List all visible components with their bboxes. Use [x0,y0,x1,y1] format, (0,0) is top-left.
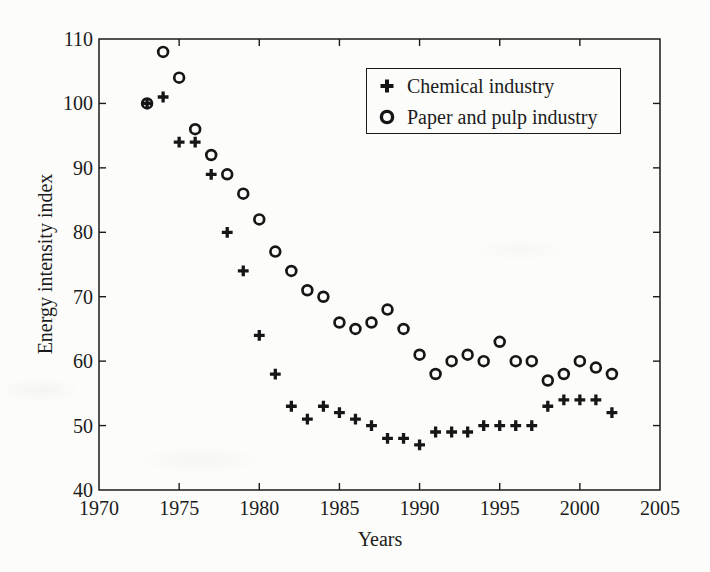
data-point-plus [318,401,329,412]
y-tick-label: 110 [33,27,93,51]
data-point-circle [206,150,216,160]
data-point-plus [478,420,489,431]
data-point-circle [495,337,505,347]
data-point-circle [222,169,232,179]
data-point-plus [526,420,537,431]
chart-figure: 405060708090100110 197019751980198519901… [0,0,710,572]
data-point-plus [238,266,249,277]
data-point-plus [510,420,521,431]
data-point-circle [399,324,409,334]
data-point-plus [350,414,361,425]
data-point-circle [351,324,361,334]
data-point-plus [430,427,441,438]
data-point-plus [414,440,425,451]
circle-marker-icon [375,105,399,129]
legend-item-chemical-industry: Chemical industry [375,72,620,100]
legend-label-chemical: Chemical industry [407,74,554,98]
data-point-circle [254,215,264,225]
x-tick-label: 1975 [139,496,219,520]
data-point-plus [446,427,457,438]
data-point-circle [431,369,441,379]
data-point-circle [302,285,312,295]
x-tick-label: 2005 [620,496,700,520]
data-point-plus [382,433,393,444]
data-point-circle [543,376,553,386]
data-point-circle [527,356,537,366]
data-point-circle [383,305,393,315]
data-point-plus [558,394,569,405]
data-point-circle [463,350,473,360]
data-point-circle [286,266,296,276]
x-axis-title: Years [320,527,440,551]
x-tick-label: 1995 [460,496,540,520]
data-point-circle [447,356,457,366]
data-point-plus [334,407,345,418]
y-tick-label: 100 [33,91,93,115]
data-point-plus [206,169,217,180]
y-axis-title: Energy intensity index [33,174,57,355]
data-point-circle [415,350,425,360]
data-point-plus [222,227,233,238]
data-point-plus [190,137,201,148]
data-point-circle [335,318,345,328]
x-tick-label: 1970 [59,496,139,520]
legend-item-paper-pulp-industry: Paper and pulp industry [375,103,620,131]
data-point-circle [319,292,329,302]
data-point-circle [511,356,521,366]
data-point-plus [494,420,505,431]
data-point-plus [174,137,185,148]
data-point-plus [398,433,409,444]
x-tick-label: 1980 [219,496,299,520]
data-point-plus [158,92,169,103]
data-point-circle [559,369,569,379]
x-tick-label: 1985 [299,496,379,520]
data-point-circle [575,356,585,366]
x-tick-label: 2000 [540,496,620,520]
data-point-circle [270,247,280,257]
legend-label-paper-pulp: Paper and pulp industry [407,105,598,129]
data-point-circle [174,73,184,83]
data-point-plus [574,394,585,405]
data-point-plus [462,427,473,438]
data-point-plus [607,407,618,418]
data-point-plus [366,420,377,431]
data-point-circle [158,47,168,57]
data-point-circle [190,124,200,134]
x-tick-label: 1990 [380,496,460,520]
legend: Chemical industry Paper and pulp industr… [366,68,621,134]
data-point-plus [254,330,265,341]
y-tick-label: 50 [33,414,93,438]
data-point-plus [542,401,553,412]
data-point-plus [270,369,281,380]
data-point-plus [302,414,313,425]
data-point-circle [607,369,617,379]
data-point-circle [367,318,377,328]
data-point-circle [591,363,601,373]
data-point-plus [590,394,601,405]
data-point-circle [479,356,489,366]
plus-marker-icon [375,74,399,98]
data-point-circle [238,189,248,199]
data-point-plus [286,401,297,412]
